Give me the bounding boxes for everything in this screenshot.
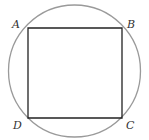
vertex-label-b: B [126,18,135,31]
vertex-label-a: A [11,18,20,31]
vertex-label-d: D [12,119,22,132]
square-abcd [28,28,122,118]
vertex-label-c: C [126,119,135,132]
diagram-canvas: A B C D [0,0,149,140]
